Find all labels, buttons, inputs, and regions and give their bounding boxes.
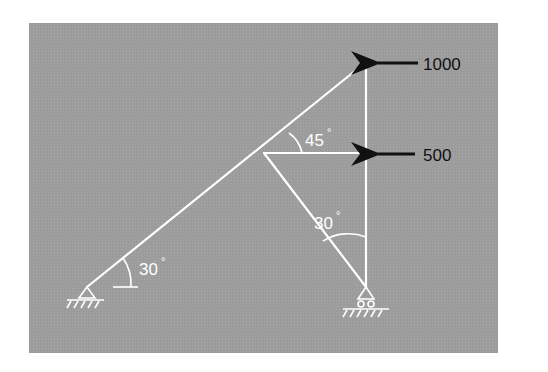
degree-mark-30-left: ° [161, 255, 165, 267]
angle-label-30-left: 30 [139, 260, 158, 279]
load-label-1000: 1000 [423, 55, 461, 74]
load-label-500: 500 [423, 146, 451, 165]
angle-label-30-right: 30 [314, 214, 333, 233]
degree-mark-30-right: ° [336, 209, 340, 221]
truss-diagram: 45 ° 30 ° 30 ° 1000 500 [0, 0, 548, 372]
angle-label-45: 45 [305, 131, 324, 150]
degree-mark-45: ° [327, 126, 331, 138]
